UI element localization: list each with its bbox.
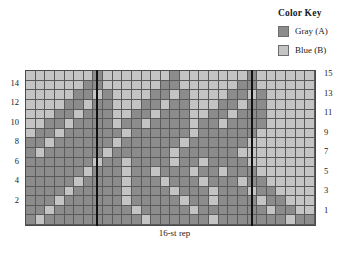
chart-cell [74,110,84,120]
chart-cell [199,167,209,177]
chart-cell [132,90,142,100]
chart-cell [45,206,55,216]
chart-cell [267,81,277,91]
chart-cell [190,167,200,177]
chart-cell [170,215,180,225]
chart-cell [103,215,113,225]
chart-cell [257,215,267,225]
chart-cell [238,129,248,139]
chart-cell [267,119,277,129]
repeat-label-wrap: 16-st rep [96,226,253,236]
chart-cell [45,138,55,148]
chart-cell [286,71,296,81]
chart-cell [219,90,229,100]
chart-cell [228,148,238,158]
chart-cell [151,138,161,148]
chart-cell [151,148,161,158]
chart-cell [199,158,209,168]
chart-cell [74,138,84,148]
chart-cell [219,196,229,206]
chart-cell [228,215,238,225]
chart-cell [142,71,152,81]
chart-cell [142,158,152,168]
chart-cell [132,206,142,216]
chart-cell [267,206,277,216]
chart-cell [190,119,200,129]
chart-cell [74,196,84,206]
chart-cell [122,177,132,187]
row-number-right: 9 [324,128,340,138]
chart-cell [142,167,152,177]
chart-cell [142,100,152,110]
chart-cell [122,206,132,216]
chart-cell [132,110,142,120]
chart-cell [132,81,142,91]
chart-cell [238,71,248,81]
chart-cell [276,129,286,139]
chart-cell [113,119,123,129]
chart-cell [122,138,132,148]
chart-cell [36,177,46,187]
chart-cell [74,187,84,197]
chart-cell [84,90,94,100]
chart-cell [65,71,75,81]
chart-cell [151,206,161,216]
chart-cell [276,167,286,177]
chart-cell [122,110,132,120]
row-number-right: 1 [324,206,340,216]
chart-cell [199,148,209,158]
chart-cell [161,187,171,197]
chart-cell [267,110,277,120]
chart-cell [199,206,209,216]
chart-cell [286,148,296,158]
chart-cell [113,81,123,91]
chart-cell [276,187,286,197]
chart-cell [103,119,113,129]
chart-cell [84,100,94,110]
chart-cell [142,215,152,225]
chart-cell [132,119,142,129]
chart-cell [180,71,190,81]
chart-cell [113,90,123,100]
chart-cell [286,215,296,225]
chart-cell [276,81,286,91]
chart-cell [209,81,219,91]
chart-cell [26,110,36,120]
chart-cell [45,110,55,120]
chart-cell [305,167,315,177]
chart-cell [55,71,65,81]
chart-cell [228,138,238,148]
chart-cell [161,148,171,158]
chart-cell [36,90,46,100]
chart-cell [170,138,180,148]
chart-cell [257,71,267,81]
chart-grid [25,70,316,226]
chart-cell [161,206,171,216]
chart-cell [113,138,123,148]
chart-cell [180,177,190,187]
chart-cell [36,81,46,91]
row-number-right: 15 [324,69,340,79]
chart-cell [190,81,200,91]
chart-cell [151,177,161,187]
chart-cell [113,167,123,177]
chart-cell [219,71,229,81]
chart-cell [257,206,267,216]
chart-cell [219,148,229,158]
chart-cell [238,110,248,120]
chart-cell [84,196,94,206]
chart-cell [103,187,113,197]
chart-cell [93,138,103,148]
chart-cell [170,167,180,177]
chart-cell [190,206,200,216]
chart-cell [65,187,75,197]
chart-cell [267,187,277,197]
chart-cell [132,196,142,206]
chart-cell [267,90,277,100]
chart-cell [199,71,209,81]
chart-cell [45,90,55,100]
chart-cell [161,138,171,148]
chart-cell [190,148,200,158]
chart-cell [26,138,36,148]
chart-cell [161,110,171,120]
